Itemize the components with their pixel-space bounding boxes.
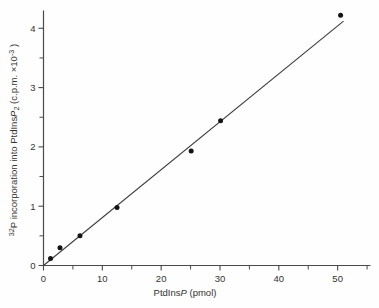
data-point bbox=[77, 233, 82, 238]
x-tick-label: 0 bbox=[41, 273, 46, 284]
data-point bbox=[57, 245, 62, 250]
x-tick-label: 20 bbox=[156, 273, 167, 284]
y-tick-label: 0 bbox=[30, 260, 35, 271]
data-point bbox=[48, 256, 53, 261]
y-tick-label: 4 bbox=[30, 23, 35, 34]
y-tick-label: 2 bbox=[30, 141, 35, 152]
data-point bbox=[115, 205, 120, 210]
x-tick-label: 30 bbox=[215, 273, 226, 284]
fit-line bbox=[44, 21, 344, 265]
data-point bbox=[218, 118, 223, 123]
y-axis-label: 32P incorporation into PtdInsP2 (c.p.m. … bbox=[7, 44, 21, 236]
data-point bbox=[338, 13, 343, 18]
y-tick-label: 1 bbox=[30, 201, 35, 212]
x-tick-label: 50 bbox=[332, 273, 343, 284]
x-axis-label: PtdInsP (pmol) bbox=[154, 287, 217, 298]
x-tick-label: 10 bbox=[97, 273, 108, 284]
y-tick-label: 3 bbox=[30, 82, 35, 93]
chart-figure: 0102030405001234PtdInsP (pmol)32P incorp… bbox=[0, 0, 379, 308]
scatter-plot: 0102030405001234PtdInsP (pmol)32P incorp… bbox=[0, 0, 379, 308]
data-point bbox=[189, 149, 194, 154]
x-tick-label: 40 bbox=[274, 273, 285, 284]
